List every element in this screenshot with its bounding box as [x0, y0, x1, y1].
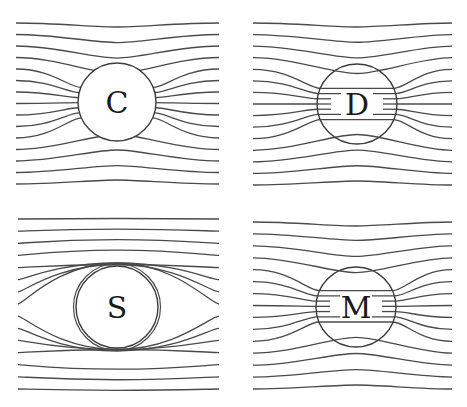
field-line	[396, 81, 452, 94]
field-line	[16, 46, 219, 58]
field-line	[16, 118, 81, 138]
panel-dielectric: D	[253, 23, 452, 185]
field-line	[253, 370, 452, 377]
field-line	[253, 258, 452, 273]
field-lines-figure: C D S M	[0, 0, 467, 407]
field-line	[253, 150, 452, 162]
field-line	[16, 23, 219, 27]
field-line	[396, 306, 452, 307]
field-line	[253, 353, 452, 365]
field-line	[253, 246, 452, 257]
field-line	[253, 317, 317, 330]
panel-label-c: C	[106, 85, 129, 120]
field-line	[253, 81, 318, 94]
field-line	[153, 118, 219, 138]
field-line	[396, 294, 452, 302]
field-line	[16, 103, 78, 104]
field-line	[253, 114, 318, 127]
field-line	[156, 103, 219, 104]
field-line	[16, 166, 219, 173]
field-line	[253, 166, 452, 174]
field-line	[253, 234, 452, 240]
field-line	[18, 365, 219, 369]
field-line	[397, 92, 452, 98]
panel-conductor: C	[16, 23, 219, 184]
field-line	[18, 377, 219, 380]
field-line	[155, 81, 219, 93]
field-line	[253, 312, 316, 318]
field-line	[253, 35, 452, 43]
field-line	[253, 222, 452, 226]
field-line	[253, 46, 452, 58]
panel-magnetic: M	[253, 222, 452, 389]
field-line	[253, 385, 452, 389]
field-line	[253, 134, 452, 150]
panel-superconductor: S	[18, 218, 219, 390]
field-line	[396, 312, 452, 318]
field-line	[253, 337, 452, 353]
field-line	[18, 229, 219, 231]
field-line	[16, 81, 79, 93]
field-line	[156, 108, 219, 115]
panel-label-m: M	[341, 290, 372, 325]
field-line	[397, 109, 452, 115]
field-line	[393, 270, 452, 291]
panel-label-d: D	[345, 87, 369, 122]
field-line	[253, 270, 319, 291]
field-line	[253, 294, 316, 302]
field-line	[253, 23, 452, 27]
field-line	[16, 35, 219, 43]
field-line	[253, 306, 316, 307]
field-line	[156, 92, 219, 98]
panel-label-s: S	[107, 290, 128, 325]
field-line	[253, 109, 317, 115]
field-line	[18, 240, 219, 244]
field-line	[253, 181, 452, 185]
field-line	[396, 114, 452, 127]
field-line	[16, 180, 219, 184]
field-line	[16, 150, 219, 161]
field-line	[16, 92, 78, 98]
field-line	[18, 218, 219, 219]
field-line	[395, 317, 452, 330]
field-line	[18, 389, 219, 390]
field-line	[253, 92, 317, 98]
field-line	[253, 58, 452, 74]
field-line	[16, 108, 78, 115]
field-line	[18, 250, 219, 255]
